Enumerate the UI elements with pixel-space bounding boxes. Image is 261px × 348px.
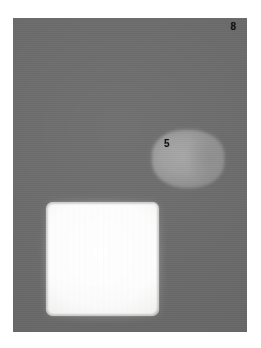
white-square — [46, 202, 160, 317]
image-panel: 5 8 — [13, 18, 247, 332]
figure-root: 5 8 — [0, 0, 261, 348]
gray-blob-shade — [190, 134, 224, 182]
gray-blob — [150, 127, 226, 191]
panel-label-8: 8 — [230, 22, 236, 32]
region-label-5: 5 — [164, 139, 170, 149]
white-square-body — [47, 203, 158, 315]
